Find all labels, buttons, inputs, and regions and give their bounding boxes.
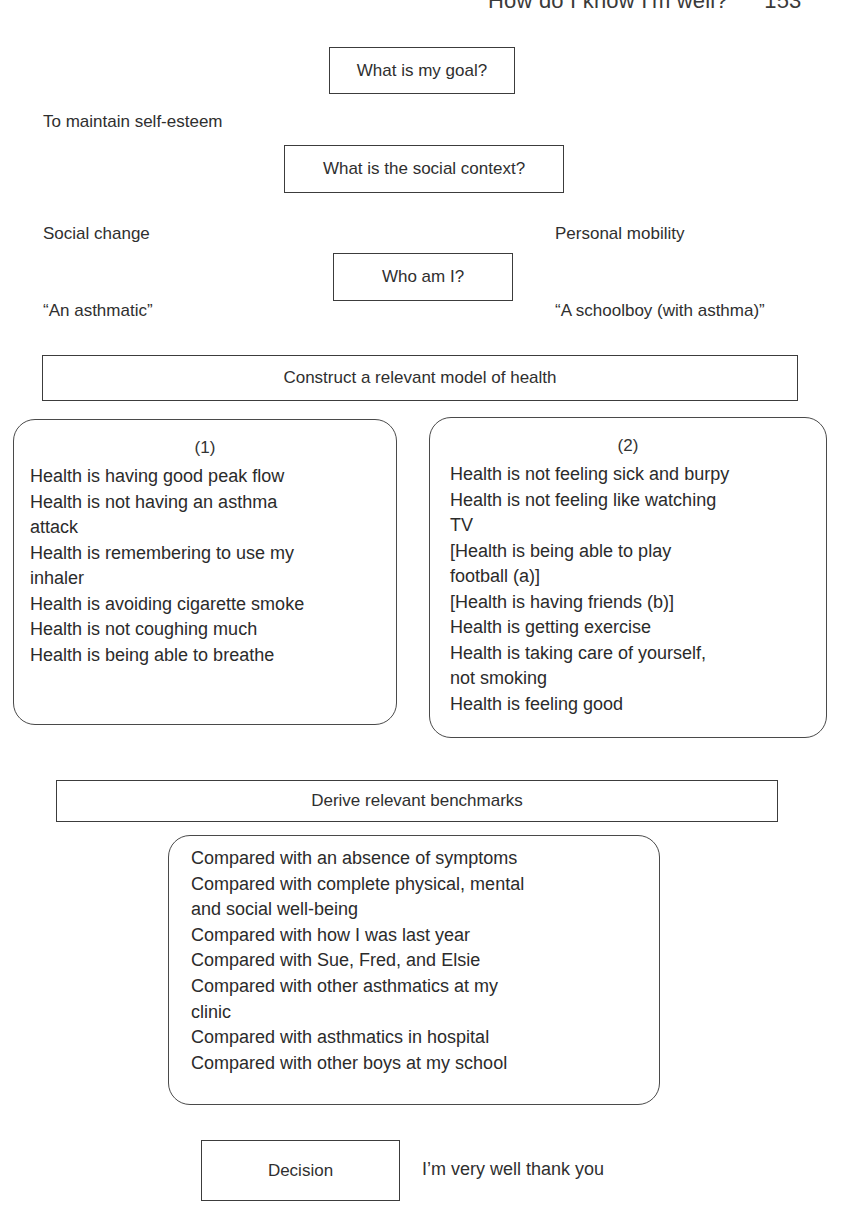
health-model-1-box: (1) Health is having good peak flow Heal… (13, 419, 397, 725)
social-context-left: Social change (43, 224, 150, 244)
benchmarks-heading-box: Derive relevant benchmarks (56, 780, 778, 822)
list-item: Health is not feeling like watching (450, 488, 826, 514)
list-item: Health is taking care of yourself, (450, 641, 826, 667)
decision-result: I’m very well thank you (422, 1159, 604, 1180)
benchmarks-list-box: Compared with an absence of symptoms Com… (168, 835, 660, 1105)
health-model-1-list: Health is having good peak flow Health i… (14, 464, 396, 668)
health-model-2-list: Health is not feeling sick and burpy Hea… (430, 462, 826, 717)
list-item: attack (30, 515, 396, 541)
identity-left: “An asthmatic” (43, 301, 153, 321)
list-item: football (a)] (450, 564, 826, 590)
identity-question-box: Who am I? (333, 253, 513, 301)
list-item: Compared with other asthmatics at my (191, 974, 659, 1000)
running-header: How do I know I'm well? 153 (488, 0, 858, 14)
benchmarks-heading: Derive relevant benchmarks (311, 791, 523, 811)
list-item: Health is avoiding cigarette smoke (30, 592, 396, 618)
goal-question: What is my goal? (357, 61, 487, 81)
list-item: inhaler (30, 566, 396, 592)
list-item: Compared with how I was last year (191, 923, 659, 949)
model-of-health-heading: Construct a relevant model of health (283, 368, 556, 388)
running-header-title: How do I know I'm well? (488, 0, 728, 13)
identity-question: Who am I? (382, 267, 464, 287)
list-item: Compared with other boys at my school (191, 1051, 659, 1077)
health-model-1-number: (1) (14, 438, 396, 458)
list-item: Health is getting exercise (450, 615, 826, 641)
decision-label: Decision (268, 1161, 333, 1181)
list-item: Health is remembering to use my (30, 541, 396, 567)
list-item: Compared with an absence of symptoms (191, 846, 659, 872)
page-number: 153 (764, 0, 801, 13)
social-context-question-box: What is the social context? (284, 145, 564, 193)
list-item: [Health is having friends (b)] (450, 590, 826, 616)
list-item: TV (450, 513, 826, 539)
list-item: Health is feeling good (450, 692, 826, 718)
benchmarks-list: Compared with an absence of symptoms Com… (169, 836, 659, 1076)
health-model-2-box: (2) Health is not feeling sick and burpy… (429, 417, 827, 738)
list-item: Compared with asthmatics in hospital (191, 1025, 659, 1051)
list-item: and social well-being (191, 897, 659, 923)
list-item: Health is being able to breathe (30, 643, 396, 669)
goal-answer: To maintain self-esteem (43, 112, 223, 132)
list-item: not smoking (450, 666, 826, 692)
list-item: Compared with complete physical, mental (191, 872, 659, 898)
health-model-2-number: (2) (430, 436, 826, 456)
model-of-health-heading-box: Construct a relevant model of health (42, 355, 798, 401)
goal-question-box: What is my goal? (329, 47, 515, 94)
list-item: clinic (191, 1000, 659, 1026)
list-item: Health is not feeling sick and burpy (450, 462, 826, 488)
identity-right: “A schoolboy (with asthma)” (555, 301, 765, 321)
decision-box: Decision (201, 1140, 400, 1201)
list-item: [Health is being able to play (450, 539, 826, 565)
list-item: Compared with Sue, Fred, and Elsie (191, 948, 659, 974)
list-item: Health is not coughing much (30, 617, 396, 643)
list-item: Health is having good peak flow (30, 464, 396, 490)
social-context-question: What is the social context? (323, 159, 525, 179)
social-context-right: Personal mobility (555, 224, 684, 244)
list-item: Health is not having an asthma (30, 490, 396, 516)
